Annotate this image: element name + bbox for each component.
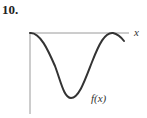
function-graph (0, 0, 147, 118)
function-curve (30, 33, 124, 98)
x-axis-label: x (134, 26, 139, 38)
curve-label: f(x) (91, 92, 106, 104)
